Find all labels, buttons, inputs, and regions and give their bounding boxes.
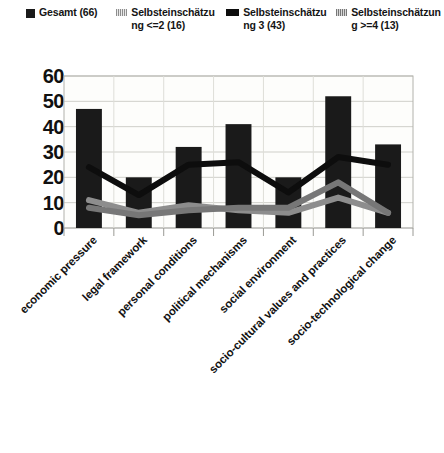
legend-label: Selbsteinschätzung <=2 (16) [131, 6, 220, 31]
x-axis-category-label: socio-technological change [107, 234, 398, 453]
chart-container: Gesamt (66) Selbsteinschätzung <=2 (16) … [0, 0, 444, 453]
legend-swatch-filled-rect-icon [226, 9, 239, 16]
bar [176, 147, 202, 228]
plot-svg [0, 62, 444, 242]
bar [126, 177, 152, 228]
chart-legend: Gesamt (66) Selbsteinschätzung <=2 (16) … [0, 6, 444, 31]
legend-swatch-hatched-light-icon [116, 9, 127, 16]
legend-item-selbsteinschaetzung-le2: Selbsteinschätzung <=2 (16) [116, 6, 220, 31]
legend-item-selbsteinschaetzung-3: Selbsteinschätzung 3 (43) [226, 6, 330, 31]
legend-item-selbsteinschaetzung-ge4: Selbsteinschätzung >=4 (13) [336, 6, 444, 31]
x-axis: economic pressurelegal frameworkpersonal… [0, 228, 444, 348]
plot-area: 0102030405060 [0, 62, 444, 242]
legend-label: Gesamt (66) [39, 6, 97, 19]
legend-swatch-hatched-mid-icon [336, 9, 347, 16]
legend-swatch-filled-square-icon [26, 9, 35, 18]
legend-label: Selbsteinschätzung >=4 (13) [351, 6, 444, 31]
legend-label: Selbsteinschätzung 3 (43) [243, 6, 330, 31]
legend-item-gesamt: Gesamt (66) [26, 6, 110, 19]
